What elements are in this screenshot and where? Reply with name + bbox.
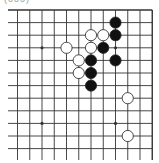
black-stone — [110, 55, 121, 66]
go-board — [0, 0, 159, 163]
star-point — [114, 46, 117, 49]
white-stone — [122, 130, 133, 141]
black-stone — [85, 55, 96, 66]
star-point — [114, 122, 117, 125]
white-stone — [122, 93, 133, 104]
white-stone — [61, 42, 72, 53]
white-stone — [85, 42, 96, 53]
black-stone — [98, 42, 109, 53]
white-stone — [85, 30, 96, 41]
black-stone — [85, 67, 96, 78]
black-stone — [110, 30, 121, 41]
white-stone — [73, 67, 84, 78]
white-stone — [73, 55, 84, 66]
black-stone — [85, 80, 96, 91]
black-stone — [110, 17, 121, 28]
star-point — [40, 122, 43, 125]
star-point — [40, 46, 43, 49]
white-stone — [98, 30, 109, 41]
